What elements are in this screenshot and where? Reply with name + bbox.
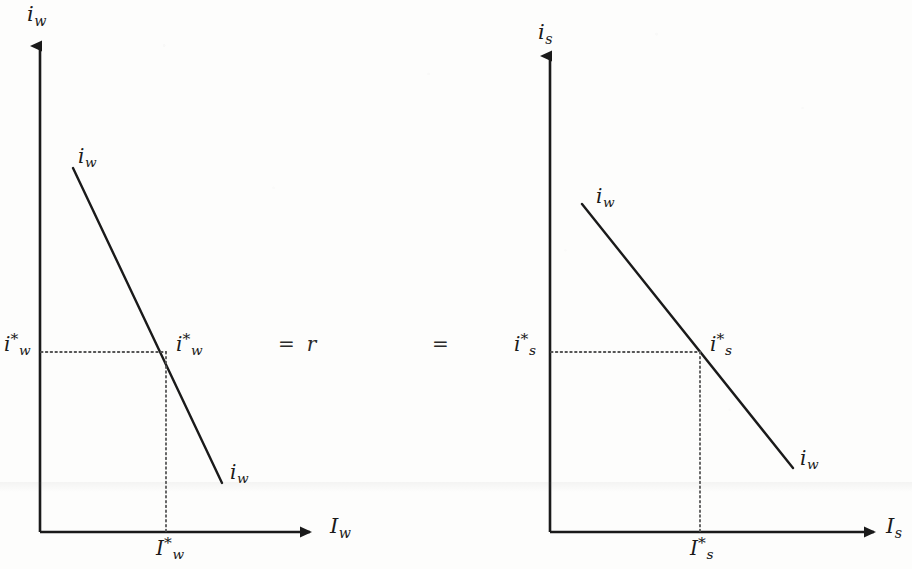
- relation-equals-r: =r: [278, 332, 316, 356]
- right-investment-demand-curve: [582, 204, 793, 468]
- equals-sign-left: =: [278, 332, 295, 356]
- right-chart-axes: [550, 56, 874, 532]
- left-curve-label-lower: iw: [230, 462, 249, 486]
- right-curve-label-lower: iw: [800, 448, 819, 472]
- right-x-equilibrium-label: I*s: [690, 536, 713, 561]
- right-x-axis-label: Is: [886, 516, 902, 540]
- right-y-equilibrium-label: i*s: [514, 332, 536, 357]
- left-x-axis-label: Iw: [330, 516, 351, 540]
- diagram-canvas: [0, 0, 912, 569]
- right-curve-label-upper: iw: [596, 186, 615, 210]
- right-y-axis-label: is: [538, 22, 553, 46]
- economics-diagram: iw Iw iw iw i*w i*w I*w =r = is Is iw iw…: [0, 0, 912, 569]
- relation-equals-right: =: [432, 332, 449, 356]
- equals-sign-right: =: [432, 332, 449, 356]
- rate-variable-r: r: [295, 332, 317, 356]
- left-curve-label-upper: iw: [78, 146, 97, 170]
- left-investment-demand-curve: [73, 168, 222, 483]
- left-chart-axes: [40, 46, 310, 532]
- left-y-equilibrium-label: i*w: [4, 332, 31, 357]
- left-x-equilibrium-label: I*w: [156, 536, 184, 561]
- left-equilibrium-point-label: i*w: [176, 332, 203, 357]
- right-equilibrium-point-label: i*s: [710, 332, 732, 357]
- left-y-axis-label: iw: [27, 4, 46, 28]
